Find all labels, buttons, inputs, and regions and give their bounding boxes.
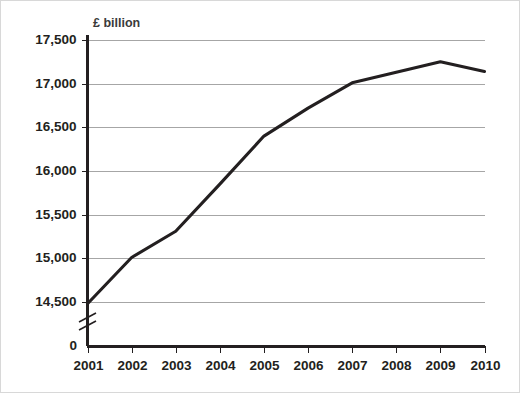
y-axis-tick-labels-group: 17,50017,00016,50016,00015,50015,00014,5… <box>35 32 76 309</box>
x-axis-tick-label: 2002 <box>117 358 147 373</box>
line-chart-figure: 17,50017,00016,50016,00015,50015,00014,5… <box>0 0 520 393</box>
y-axis-tick-label: 15,500 <box>35 207 76 222</box>
y-axis-tick-label: 17,000 <box>35 76 76 91</box>
y-axis-tick-label: 15,000 <box>35 250 76 265</box>
x-axis-tick-label: 2010 <box>470 358 500 373</box>
x-axis-tick-label: 2004 <box>205 358 236 373</box>
x-axis-tick-label: 2005 <box>249 358 280 373</box>
y-axis-zero-label: 0 <box>69 338 77 353</box>
chart-canvas: 17,50017,00016,50016,00015,50015,00014,5… <box>1 1 520 393</box>
y-axis-tick-label: 17,500 <box>35 32 76 47</box>
x-axis-tick-label: 2007 <box>337 358 367 373</box>
x-axis-tick-labels-group: 2001200220032004200520062007200820092010 <box>73 358 500 373</box>
x-axis-tick-label: 2003 <box>161 358 192 373</box>
y-axis-tick-label: 14,500 <box>35 294 76 309</box>
x-axis-tick-label: 2009 <box>425 358 455 373</box>
gridlines-group <box>88 41 485 303</box>
data-series-line <box>88 62 485 304</box>
y-axis-tick-label: 16,500 <box>35 119 76 134</box>
x-axis-tick-label: 2008 <box>381 358 412 373</box>
x-axis-tick-label: 2001 <box>73 358 104 373</box>
y-axis-tick-label: 16,000 <box>35 163 76 178</box>
x-axis-tick-label: 2006 <box>293 358 324 373</box>
y-axis-unit-label: £ billion <box>93 16 140 30</box>
